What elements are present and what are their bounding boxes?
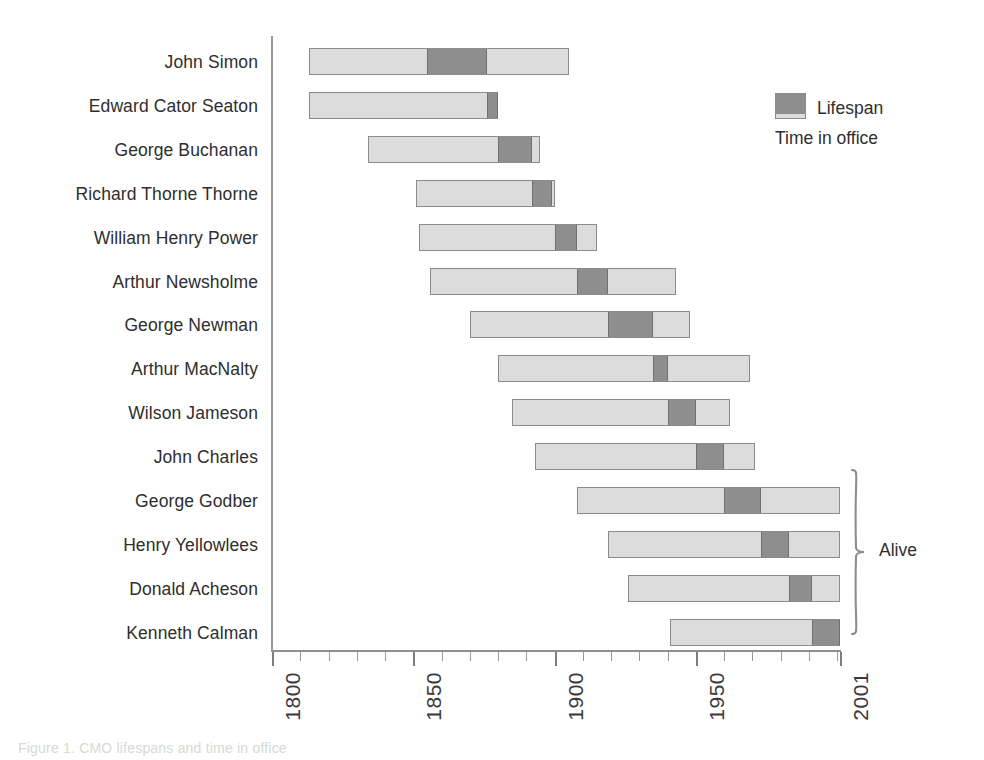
chart-row: George Buchanan (272, 136, 840, 164)
chart-row: George Newman (272, 311, 840, 339)
axis-tick-label: 2001 (849, 672, 873, 721)
category-label: Kenneth Calman (126, 622, 258, 643)
axis-tick-minor (752, 652, 753, 661)
axis-tick-minor (300, 652, 301, 661)
axis-tick-minor (329, 652, 330, 661)
time-in-office-segment (532, 181, 552, 206)
axis-tick-major (413, 652, 415, 666)
axis-tick-minor (357, 652, 358, 661)
time-in-office-segment (577, 269, 608, 294)
category-label: Donald Acheson (129, 578, 258, 599)
axis-tick-minor (724, 652, 725, 661)
category-label: Arthur Newsholme (112, 271, 258, 292)
axis-tick-label: 1800 (281, 672, 305, 721)
time-in-office-segment (761, 532, 789, 557)
alive-brace-icon (848, 468, 874, 636)
category-label: Henry Yellowlees (123, 534, 258, 555)
lifespan-bar (309, 48, 569, 75)
lifespan-bar (670, 619, 840, 646)
chart-row: Arthur MacNalty (272, 355, 840, 383)
lifespan-bar (577, 487, 840, 514)
chart-row: Henry Yellowlees (272, 531, 840, 559)
axis-tick-label: 1950 (705, 672, 729, 721)
lifespan-bar (535, 443, 755, 470)
axis-tick-label: 1900 (564, 672, 588, 721)
category-label: George Buchanan (114, 139, 258, 160)
chart-row: Edward Cator Seaton (272, 92, 840, 120)
time-in-office-segment (724, 488, 761, 513)
legend-swatch-time-in-office (775, 93, 806, 114)
chart-row: Arthur Newsholme (272, 268, 840, 296)
time-in-office-segment (812, 620, 840, 645)
axis-tick-minor (498, 652, 499, 661)
chart-row: George Godber (272, 487, 840, 515)
axis-tick-minor (385, 652, 386, 661)
axis-tick-minor (837, 652, 838, 661)
category-label: William Henry Power (94, 227, 258, 248)
lifespan-bar (608, 531, 840, 558)
lifespan-bar (419, 224, 597, 251)
lifespan-bar (512, 399, 730, 426)
axis-tick-minor (611, 652, 612, 661)
category-label: Richard Thorne Thorne (76, 183, 258, 204)
alive-annotation-label: Alive (879, 540, 917, 561)
chart-container: 18001850190019502001 John SimonEdward Ca… (0, 0, 984, 760)
chart-row: William Henry Power (272, 224, 840, 252)
chart-row: Donald Acheson (272, 575, 840, 603)
time-in-office-segment (608, 312, 653, 337)
axis-tick-minor (781, 652, 782, 661)
time-in-office-segment (555, 225, 578, 250)
category-label: George Newman (124, 315, 258, 336)
axis-tick-major (272, 652, 274, 666)
axis-tick-minor (809, 652, 810, 661)
lifespan-bar (430, 268, 676, 295)
plot-area: John SimonEdward Cator SeatonGeorge Buch… (272, 36, 840, 648)
time-in-office-segment (653, 356, 667, 381)
time-in-office-segment (427, 49, 486, 74)
lifespan-bar (416, 180, 554, 207)
axis-tick-major (840, 652, 842, 666)
chart-row: John Simon (272, 48, 840, 76)
lifespan-bar (368, 136, 540, 163)
legend-label-time-in-office: Time in office (775, 128, 878, 149)
category-label: John Charles (154, 447, 258, 468)
axis-tick-label: 1850 (422, 672, 446, 721)
axis-tick-minor (526, 652, 527, 661)
axis-tick-major (555, 652, 557, 666)
time-in-office-segment (668, 400, 696, 425)
figure-caption: Figure 1. CMO lifespans and time in offi… (18, 740, 287, 756)
chart-row: Kenneth Calman (272, 619, 840, 647)
chart-row: Wilson Jameson (272, 399, 840, 427)
category-label: Arthur MacNalty (131, 359, 258, 380)
lifespan-bar (628, 575, 840, 602)
time-in-office-segment (498, 137, 532, 162)
lifespan-bar (470, 311, 690, 338)
axis-tick-minor (639, 652, 640, 661)
category-label: Edward Cator Seaton (89, 95, 258, 116)
time-in-office-segment (696, 444, 724, 469)
axis-tick-minor (470, 652, 471, 661)
legend-item-time-in-office: Time in office (775, 123, 883, 153)
lifespan-bar (309, 92, 498, 119)
legend-label-lifespan: Lifespan (817, 98, 883, 119)
axis-tick-minor (583, 652, 584, 661)
axis-tick-minor (442, 652, 443, 661)
category-label: Wilson Jameson (128, 403, 258, 424)
chart-legend: Lifespan Time in office (775, 93, 883, 153)
chart-row: John Charles (272, 443, 840, 471)
time-in-office-segment (789, 576, 812, 601)
category-label: George Godber (135, 491, 258, 512)
lifespan-bar (498, 355, 750, 382)
chart-row: Richard Thorne Thorne (272, 180, 840, 208)
category-label: John Simon (165, 52, 258, 73)
axis-tick-minor (668, 652, 669, 661)
axis-tick-major (696, 652, 698, 666)
time-in-office-segment (487, 93, 498, 118)
